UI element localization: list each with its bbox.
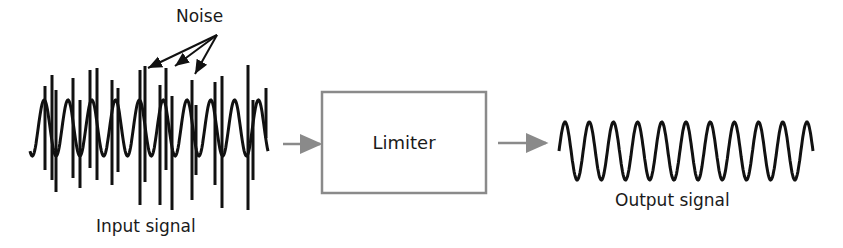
- input-signal-wave: [30, 100, 268, 156]
- limiter-label: Limiter: [322, 92, 486, 193]
- output-signal-label: Output signal: [615, 190, 730, 210]
- noise-pointer-arrows: [148, 35, 217, 74]
- input-signal-label: Input signal: [96, 216, 196, 236]
- output-signal-wave: [559, 122, 813, 180]
- noise-label: Noise: [176, 6, 223, 26]
